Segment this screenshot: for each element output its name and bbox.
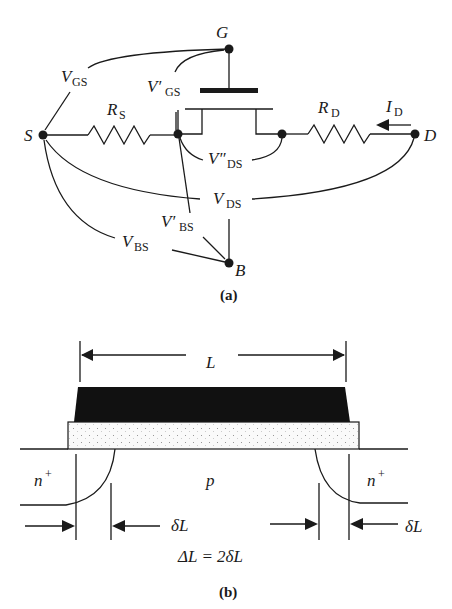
mosfet-diagram: G R S S D R D xyxy=(0,0,452,609)
gate-plate xyxy=(200,88,258,93)
figure-a-caption: (a) xyxy=(220,287,238,304)
length-dimension: L xyxy=(80,341,346,382)
delta-equation: ΔL = 2δL xyxy=(177,547,243,566)
svg-text:GS: GS xyxy=(72,75,87,89)
vds-label: V DS xyxy=(213,189,241,211)
svg-text:V: V xyxy=(213,189,226,208)
body-label: B xyxy=(235,261,246,280)
vgs-int-line-upper xyxy=(175,50,224,72)
vgs-line-lower xyxy=(45,92,70,130)
svg-text:S: S xyxy=(119,108,126,122)
right-n-plus-label: n + xyxy=(367,467,385,490)
drain-resistor xyxy=(308,125,370,143)
svg-text:BS: BS xyxy=(134,240,149,254)
right-delta-arrows: δL xyxy=(270,517,422,536)
left-n-plus-label: n + xyxy=(34,467,52,490)
gate-poly xyxy=(74,387,350,422)
svg-text:V′: V′ xyxy=(161,212,175,231)
svg-text:R: R xyxy=(317,98,329,117)
gate-terminal: G xyxy=(216,23,234,89)
drain-label: D xyxy=(423,126,437,145)
svg-text:V′: V′ xyxy=(147,77,161,96)
drain-current-label: I D xyxy=(385,97,403,119)
left-delta-arrows: δL xyxy=(25,516,188,535)
vds-line-left xyxy=(46,140,200,199)
svg-text:V″: V″ xyxy=(208,149,226,168)
vds-int-label: V″ DS xyxy=(208,149,242,171)
svg-text:+: + xyxy=(45,467,52,481)
svg-text:R: R xyxy=(106,100,118,119)
vds-line-right xyxy=(252,138,414,199)
svg-text:D: D xyxy=(394,105,403,119)
source-resistor-label: R S xyxy=(106,100,126,122)
substrate-label: p xyxy=(205,471,215,490)
figure-b-cross-section: L n + p n + xyxy=(20,341,422,601)
vbs-int-line-lower xyxy=(203,237,225,259)
vbs-line-upper xyxy=(44,140,115,238)
right-delta-label: δL xyxy=(405,517,422,536)
svg-text:n: n xyxy=(367,471,376,490)
vbs-int-line-upper xyxy=(179,138,190,213)
vds-int-line-right xyxy=(252,138,282,160)
drain-node xyxy=(411,130,420,139)
vds-int-line-left xyxy=(180,138,203,160)
vbs-label: V BS xyxy=(122,232,149,254)
left-delta-label: δL xyxy=(171,516,188,535)
svg-text:DS: DS xyxy=(227,157,242,171)
source-label: S xyxy=(24,126,33,145)
drain-resistor-label: R D xyxy=(317,98,340,120)
svg-text:GS: GS xyxy=(165,85,180,99)
svg-text:I: I xyxy=(385,97,393,116)
svg-text:BS: BS xyxy=(179,220,194,234)
length-label: L xyxy=(205,353,215,372)
vgs-int-label: V′ GS xyxy=(147,77,180,99)
vbs-int-label: V′ BS xyxy=(161,212,194,234)
svg-text:DS: DS xyxy=(226,197,241,211)
figure-b-caption: (b) xyxy=(219,584,237,601)
source-resistor xyxy=(88,126,150,144)
gate-label: G xyxy=(216,23,228,42)
internal-drain-node xyxy=(278,130,287,139)
drain-current-arrow xyxy=(376,119,411,131)
right-junction xyxy=(315,449,408,503)
svg-text:+: + xyxy=(378,467,385,481)
source-node xyxy=(39,131,48,140)
figure-a-circuit: G R S S D R D xyxy=(24,23,437,304)
svg-text:n: n xyxy=(34,471,43,490)
channel xyxy=(178,109,282,134)
svg-text:D: D xyxy=(331,106,340,120)
vgs-label: V GS xyxy=(61,67,87,89)
